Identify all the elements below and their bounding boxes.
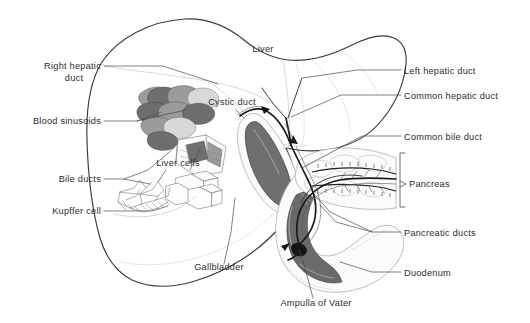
label-bile-ducts: Bile ducts: [59, 174, 101, 184]
label-right-hepatic-duct-line2: duct: [65, 73, 84, 83]
label-blood-sinusoids: Blood sinusoids: [33, 116, 101, 126]
label-pancreatic-ducts: Pancreatic ducts: [404, 228, 476, 238]
label-duodenum: Duodenum: [404, 268, 451, 278]
label-cystic-duct: Cystic duct: [208, 97, 256, 107]
label-right-hepatic-duct-line1: Right hepatic: [44, 61, 101, 71]
label-gallbladder: Gallbladder: [194, 262, 244, 272]
pancreas-bracket: [400, 153, 406, 207]
label-ampulla-of-vater: Ampulla of Vater: [280, 298, 351, 308]
label-left-hepatic-duct: Left hepatic duct: [404, 66, 476, 76]
label-common-bile-duct: Common bile duct: [404, 132, 482, 142]
label-liver-cells: Liver cells: [156, 158, 200, 168]
label-pancreas: Pancreas: [409, 179, 450, 189]
anatomy-figure: Liver Right hepatic duct Blood sinusoids…: [0, 0, 530, 323]
label-kupffer-cell: Kupffer cell: [52, 206, 101, 216]
label-common-hepatic-duct: Common hepatic duct: [404, 91, 498, 101]
label-liver: Liver: [252, 44, 273, 54]
